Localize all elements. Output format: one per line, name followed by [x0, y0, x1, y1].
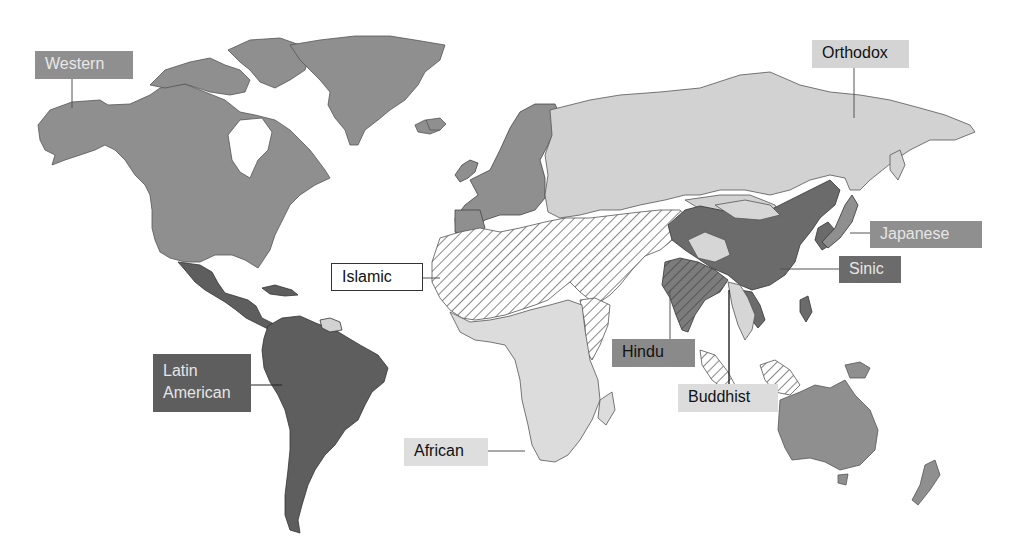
label-orthodox: Orthodox [812, 40, 909, 68]
label-hindu: Hindu [612, 339, 695, 367]
region-orthodox [545, 72, 975, 220]
label-western: Western [35, 51, 133, 79]
label-sinic: Sinic [839, 256, 901, 283]
region-western-oceania [778, 362, 940, 505]
label-islamic: Islamic [331, 263, 423, 291]
region-western-europe [455, 104, 560, 235]
label-japanese: Japanese [870, 221, 982, 248]
label-latin-american: Latin American [153, 354, 251, 412]
label-buddhist: Buddhist [678, 384, 778, 412]
label-african: African [404, 438, 488, 466]
region-philippines [800, 296, 812, 322]
region-buddhist-se-asia [728, 282, 755, 340]
region-western-greenland [426, 118, 446, 130]
